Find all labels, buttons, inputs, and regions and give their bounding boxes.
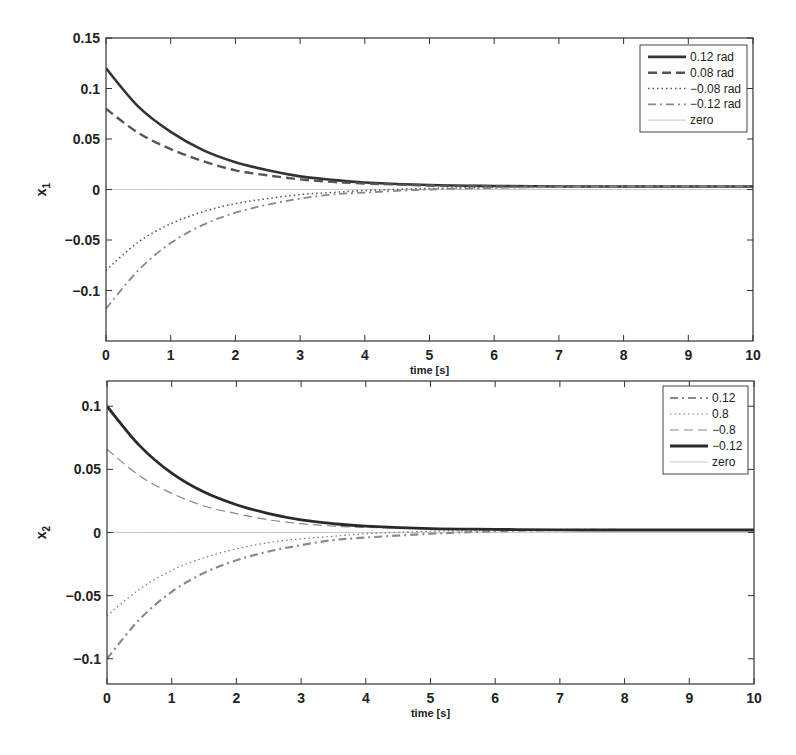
top-plot-x1: 0123456789100.150.10.050−0.05−0.1time [s… [33, 30, 761, 376]
x-tick-label: 2 [232, 347, 240, 363]
x-tick-label: 5 [427, 690, 435, 706]
y-tick-label: 0 [92, 182, 100, 198]
series-line--0.12 [107, 406, 754, 530]
legend-entry-label: zero [712, 455, 736, 469]
series-group [107, 406, 754, 659]
x-tick-label: 3 [297, 690, 305, 706]
y-tick-label: 0 [93, 525, 101, 541]
series-line-0.12 [107, 530, 754, 659]
x-tick-label: 9 [684, 347, 692, 363]
x-tick-label: 4 [362, 690, 370, 706]
x-axis-label: time [s] [410, 364, 449, 376]
legend-entry-label: −0.8 [712, 423, 736, 437]
series-line--0.8 [107, 449, 754, 530]
x-tick-label: 6 [490, 347, 498, 363]
y-tick-label: 0.05 [73, 131, 100, 147]
x-tick-label: 8 [621, 690, 629, 706]
bottom-plot-x2: 0123456789100.10.050−0.05−0.1time [s]x20… [33, 381, 762, 719]
series-line--0.12-rad [106, 186, 753, 308]
y-tick-label: 0.15 [73, 30, 100, 46]
x-tick-label: 6 [491, 690, 499, 706]
figure: 0123456789100.150.10.050−0.05−0.1time [s… [0, 0, 796, 755]
x-tick-label: 7 [555, 347, 563, 363]
legend-entry-label: −0.12 rad [690, 97, 741, 111]
y-tick-label: 0.1 [82, 398, 102, 414]
legend: 0.120.8−0.8−0.12zero [663, 386, 748, 474]
x-tick-label: 1 [167, 347, 175, 363]
x-tick-label: 7 [556, 690, 564, 706]
x-tick-label: 8 [620, 347, 628, 363]
legend-entry-label: −0.12 [712, 439, 743, 453]
legend-entry-label: 0.08 rad [690, 66, 734, 80]
x-tick-label: 10 [746, 690, 762, 706]
legend-entry-label: 0.8 [712, 407, 729, 421]
y-tick-label: −0.05 [66, 588, 102, 604]
x-tick-label: 2 [233, 690, 241, 706]
y-axis-label: x1 [33, 182, 52, 196]
y-tick-label: 0.05 [74, 461, 101, 477]
x-tick-label: 4 [361, 347, 369, 363]
legend: 0.12 rad0.08 rad−0.08 rad−0.12 radzero [640, 45, 747, 132]
x-tick-label: 3 [296, 347, 304, 363]
x-tick-label: 9 [685, 690, 693, 706]
series-line--0.08-rad [106, 186, 753, 270]
y-tick-label: −0.1 [72, 283, 100, 299]
x-axis-label: time [s] [411, 707, 450, 719]
x-tick-label: 5 [426, 347, 434, 363]
legend-entry-label: 0.12 [712, 391, 736, 405]
legend-entry-label: 0.12 rad [690, 50, 734, 64]
x-tick-label: 1 [168, 690, 176, 706]
x-tick-label: 10 [745, 347, 761, 363]
y-tick-label: −0.05 [65, 232, 101, 248]
chart-canvas: 0123456789100.150.10.050−0.05−0.1time [s… [0, 0, 796, 755]
legend-entry-label: −0.08 rad [690, 82, 741, 96]
x-tick-label: 0 [103, 690, 111, 706]
y-tick-label: −0.1 [73, 651, 101, 667]
y-axis-label: x2 [33, 525, 52, 539]
y-tick-label: 0.1 [81, 81, 101, 97]
x-tick-label: 0 [102, 347, 110, 363]
legend-entry-label: zero [690, 113, 714, 127]
